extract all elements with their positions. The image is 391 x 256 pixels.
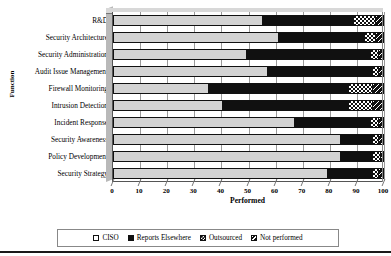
bar-segment-ciso (114, 152, 340, 161)
bar-segment-outsourced (372, 152, 380, 161)
plot-right-edge (382, 12, 383, 182)
stacked-bar (113, 151, 384, 162)
y-axis-tick-label: Audit Issue Management (8, 68, 108, 76)
stacked-bar-chart: Function R&DSecurity ArchitectureSecurit… (0, 0, 391, 256)
bar-segment-ciso (114, 84, 208, 93)
bar-segment-reports-elsewhere (340, 152, 372, 161)
legend-item: Not performed (251, 234, 303, 242)
stacked-bar (113, 49, 384, 60)
bar-segment-outsourced (353, 16, 375, 25)
x-axis-tick-label: 90 (352, 187, 359, 195)
plot-area (112, 12, 383, 182)
x-axis-tick-label: 80 (325, 187, 332, 195)
gridline (384, 12, 385, 181)
legend-item: CISO (93, 234, 118, 242)
bar-segment-reports-elsewhere (267, 67, 372, 76)
bar-row (113, 49, 384, 60)
legend-label: CISO (102, 234, 118, 242)
bar-row (113, 134, 384, 145)
legend-label: Not performed (260, 234, 303, 242)
x-axis-tick-label: 0 (110, 187, 114, 195)
bar-row (113, 168, 384, 179)
bar-segment-reports-elsewhere (294, 118, 369, 127)
bar-segment-reports-elsewhere (327, 169, 373, 178)
bar-segment-reports-elsewhere (246, 50, 370, 59)
stacked-bar (113, 32, 384, 43)
bar-segment-reports-elsewhere (222, 101, 348, 110)
x-axis-tick-label: 70 (298, 187, 305, 195)
bar-segment-outsourced (348, 84, 372, 93)
reports-elsewhere-swatch-icon (128, 235, 134, 241)
bar-segment-ciso (114, 101, 222, 110)
x-axis-title: Performed (112, 196, 383, 205)
not-performed-swatch-icon (251, 235, 257, 241)
bar-segment-outsourced (364, 33, 375, 42)
bar-segment-ciso (114, 16, 262, 25)
stacked-bar (113, 100, 384, 111)
y-axis-tick-label: Security Architecture (8, 34, 108, 42)
stacked-bar (113, 83, 384, 94)
bar-row (113, 100, 384, 111)
x-axis-tick-label: 20 (163, 187, 170, 195)
bar-row (113, 83, 384, 94)
x-axis-tick-label: 10 (136, 187, 143, 195)
x-axis-tick-label: 60 (271, 187, 278, 195)
bar-segment-reports-elsewhere (262, 16, 353, 25)
bar-segment-ciso (114, 33, 278, 42)
y-axis-tick-label: Security Awareness (8, 136, 108, 144)
stacked-bar (113, 117, 384, 128)
bar-segment-ciso (114, 67, 267, 76)
x-axis-ticks: 0102030405060708090100 (112, 183, 383, 195)
stacked-bar (113, 168, 384, 179)
y-axis-tick-label: Incident Response (8, 119, 108, 127)
bar-row (113, 151, 384, 162)
stacked-bar (113, 15, 384, 26)
y-axis-tick-label: Policy Development (8, 153, 108, 161)
y-axis-tick-label: Firewall Monitoring (8, 85, 108, 93)
x-axis-tick-label: 100 (378, 187, 389, 195)
bar-segment-ciso (114, 169, 327, 178)
legend-item: Reports Elsewhere (128, 234, 191, 242)
bar-row (113, 15, 384, 26)
legend-item: Outsourced (200, 234, 242, 242)
chart-legend: CISOReports ElsewhereOutsourcedNot perfo… (57, 229, 339, 247)
x-axis-tick-label: 50 (244, 187, 251, 195)
bar-segment-ciso (114, 135, 340, 144)
y-axis-tick-label: Security Administration (8, 51, 108, 59)
bar-segment-outsourced (370, 50, 378, 59)
bar-segment-outsourced (348, 101, 372, 110)
bar-row (113, 117, 384, 128)
bar-segment-reports-elsewhere (208, 84, 348, 93)
bar-segment-ciso (114, 50, 246, 59)
bottom-rule (0, 251, 391, 253)
bar-segment-ciso (114, 118, 294, 127)
y-axis-tick-label: Security Strategy (8, 170, 108, 178)
outsourced-swatch-icon (200, 235, 206, 241)
stacked-bar (113, 66, 384, 77)
y-axis-category-labels: R&DSecurity ArchitectureSecurity Adminis… (8, 12, 108, 182)
ciso-swatch-icon (93, 235, 99, 241)
bar-segment-reports-elsewhere (278, 33, 364, 42)
bar-segment-outsourced (370, 118, 378, 127)
stacked-bar (113, 134, 384, 145)
legend-label: Reports Elsewhere (137, 234, 191, 242)
bar-row (113, 32, 384, 43)
bar-segment-reports-elsewhere (340, 135, 372, 144)
legend-label: Outsourced (209, 234, 242, 242)
x-axis-tick-label: 30 (190, 187, 197, 195)
x-axis-tick-label: 40 (217, 187, 224, 195)
y-axis-tick-label: Intrusion Detection (8, 102, 108, 110)
y-axis-tick-label: R&D (8, 17, 108, 25)
bar-row (113, 66, 384, 77)
